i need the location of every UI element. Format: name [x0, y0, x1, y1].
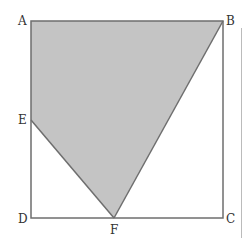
label-f: F — [110, 223, 118, 237]
label-e: E — [18, 113, 27, 127]
geometry-diagram: A B C D E F — [0, 0, 243, 240]
label-d: D — [18, 212, 28, 226]
label-b: B — [226, 14, 235, 28]
label-a: A — [17, 14, 27, 28]
label-c: C — [226, 212, 235, 226]
shaded-region — [31, 21, 223, 218]
